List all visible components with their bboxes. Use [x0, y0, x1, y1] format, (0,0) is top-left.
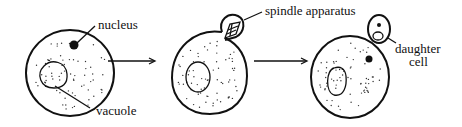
cytoplasm-dot [379, 80, 380, 81]
cytoplasm-dot [191, 83, 192, 84]
budding-diagram: nucleus vacuole spindle apparatus [0, 0, 462, 127]
cytoplasm-dot [213, 69, 214, 70]
cytoplasm-dot [350, 66, 351, 67]
cytoplasm-dot [333, 80, 334, 81]
cytoplasm-dot [326, 100, 327, 101]
cytoplasm-dot [213, 103, 214, 104]
cytoplasm-dot [57, 43, 58, 44]
cytoplasm-dot [212, 105, 213, 106]
cytoplasm-dot [62, 59, 63, 60]
cytoplasm-dot [47, 59, 48, 60]
cytoplasm-dot [178, 82, 179, 83]
cytoplasm-dot [339, 69, 340, 70]
cytoplasm-dot [234, 79, 235, 80]
cytoplasm-dot [84, 75, 85, 76]
cytoplasm-dot [193, 104, 194, 105]
cytoplasm-dot [229, 79, 230, 80]
cytoplasm-dot [350, 102, 351, 103]
cytoplasm-dot [51, 73, 52, 74]
cytoplasm-dot [45, 76, 46, 77]
cytoplasm-dot [206, 95, 207, 96]
cytoplasm-dot [188, 74, 189, 75]
cytoplasm-dot [190, 50, 191, 51]
cytoplasm-dot [367, 47, 368, 48]
cytoplasm-dot [102, 74, 103, 75]
cytoplasm-dot [74, 106, 75, 107]
cytoplasm-dot [189, 70, 190, 71]
cytoplasm-dot [61, 43, 62, 44]
cytoplasm-dot [193, 70, 194, 71]
cell-membrane [311, 36, 389, 118]
cytoplasm-dot [88, 89, 89, 90]
cytoplasm-dot [333, 61, 334, 62]
cytoplasm-dot [35, 82, 36, 83]
cytoplasm-dot [364, 92, 365, 93]
cytoplasm-dot [45, 80, 46, 81]
vacuole [40, 62, 67, 88]
cytoplasm-dot [201, 89, 202, 90]
cytoplasm-dot [347, 77, 348, 78]
cytoplasm-dot [217, 79, 218, 80]
cytoplasm-dot [37, 85, 38, 86]
vacuole [186, 62, 210, 92]
cytoplasm-dot [363, 49, 364, 50]
cytoplasm-dot [59, 92, 60, 93]
cytoplasm-dot [179, 83, 180, 84]
vacuole-label: vacuole [96, 103, 137, 118]
daughter-vacuole [373, 32, 383, 40]
cytoplasm-dot [50, 58, 51, 59]
cytoplasm-dot [350, 78, 351, 79]
nucleus [366, 56, 373, 63]
cytoplasm-dot [72, 92, 73, 93]
cytoplasm-dot [232, 68, 233, 69]
cytoplasm-dot [59, 76, 60, 77]
cytoplasm-dot [220, 101, 221, 102]
cytoplasm-dot [74, 95, 75, 96]
cytoplasm-dot [36, 65, 37, 66]
cytoplasm-dot [228, 81, 229, 82]
cytoplasm-dot [335, 69, 336, 70]
cytoplasm-dot [337, 80, 338, 81]
cytoplasm-dot [51, 76, 52, 77]
cytoplasm-dot [198, 94, 199, 95]
cytoplasm-dot [64, 64, 65, 65]
cytoplasm-dot [338, 106, 339, 107]
cytoplasm-dot [198, 56, 199, 57]
cytoplasm-dot [62, 104, 63, 105]
cytoplasm-dot [342, 74, 343, 75]
cytoplasm-dot [93, 96, 94, 97]
cytoplasm-dot [49, 66, 50, 67]
cytoplasm-dot [52, 78, 53, 79]
cytoplasm-dot [204, 46, 205, 47]
spindle-label: spindle apparatus [265, 3, 356, 18]
cytoplasm-dot [85, 61, 86, 62]
cytoplasm-dot [331, 78, 332, 79]
cytoplasm-dot [90, 67, 91, 68]
cytoplasm-dot [77, 61, 78, 62]
cytoplasm-dot [229, 58, 230, 59]
cytoplasm-dot [346, 57, 347, 58]
cytoplasm-dot [361, 92, 362, 93]
cytoplasm-dot [232, 98, 233, 99]
cytoplasm-dot [353, 59, 354, 60]
cytoplasm-dot [209, 43, 210, 44]
cytoplasm-dot [233, 51, 234, 52]
cytoplasm-dot [73, 79, 74, 80]
cytoplasm-dot [364, 89, 365, 90]
cytoplasm-dot [368, 79, 369, 80]
cytoplasm-dot [380, 68, 381, 69]
cytoplasm-dot [338, 50, 339, 51]
daughter-label-line2: cell [409, 54, 428, 69]
arrow-1 [108, 58, 155, 64]
cytoplasm-dot [216, 61, 217, 62]
cytoplasm-dot [64, 70, 65, 71]
daughter-cell [368, 15, 390, 43]
cytoplasm-dot [101, 89, 102, 90]
cytoplasm-dot [56, 90, 57, 91]
cytoplasm-dot [70, 73, 71, 74]
cytoplasm-dot [57, 45, 58, 46]
cytoplasm-dot [87, 104, 88, 105]
cytoplasm-dot [73, 59, 74, 60]
cytoplasm-dot [350, 43, 351, 44]
cytoplasm-dot [333, 62, 334, 63]
